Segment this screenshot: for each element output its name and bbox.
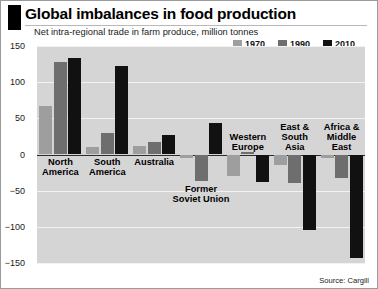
bar-2010 (303, 155, 316, 231)
category-label-line: America (42, 167, 79, 177)
bar-group: NorthAmerica (37, 46, 84, 263)
bar-group: WesternEurope (224, 46, 271, 263)
bar-1990 (288, 155, 301, 184)
bar-1970 (180, 155, 193, 159)
category-label-line: South (280, 132, 309, 142)
chart-subtitle: Net intra-regional trade in farm produce… (34, 27, 258, 37)
y-axis-tick-100: 100 (0, 77, 25, 87)
bar-group: SouthAmerica (84, 46, 131, 263)
bar-group: East &SouthAsia (271, 46, 318, 263)
category-label-line: America (89, 167, 126, 177)
bar-2010 (68, 58, 81, 154)
category-label-line: Middle (324, 132, 360, 142)
bar-2010 (256, 155, 269, 182)
bar-group: Australia (131, 46, 178, 263)
bar-1970 (227, 155, 240, 177)
category-label-line: East (324, 142, 360, 152)
bar-1970 (133, 146, 146, 155)
category-label: FormerSoviet Union (173, 184, 230, 204)
bar-2010 (115, 66, 128, 154)
category-label: WesternEurope (230, 132, 267, 152)
bar-groups: NorthAmericaSouthAmericaAustraliaFormerS… (37, 46, 365, 263)
chart-page: Global imbalances in food production Net… (0, 0, 378, 289)
category-label-line: Western (230, 132, 267, 142)
bar-group: Africa &MiddleEast (318, 46, 365, 263)
category-label-line: Soviet Union (173, 194, 230, 204)
y-axis-tick--100: −100 (0, 222, 25, 232)
header-accent-bar (8, 5, 21, 30)
gridline--150 (37, 263, 365, 264)
y-axis-tick-150: 150 (0, 41, 25, 51)
title-divider (25, 25, 367, 26)
bar-1990 (335, 155, 348, 179)
bar-1990 (195, 155, 208, 182)
category-label: East &SouthAsia (280, 122, 309, 153)
category-label: Africa &MiddleEast (324, 122, 360, 153)
category-label-line: East & (280, 122, 309, 132)
category-label-line: North (42, 157, 79, 167)
bar-1990 (241, 152, 254, 154)
category-label-line: South (89, 157, 126, 167)
bar-2010 (162, 135, 175, 155)
category-label-line: Africa & (324, 122, 360, 132)
bar-group: FormerSoviet Union (178, 46, 225, 263)
y-axis-tick--50: −50 (0, 186, 25, 196)
category-label-line: Former (173, 184, 230, 194)
plot-area: 150100500−50−100−150NorthAmericaSouthAme… (37, 46, 365, 263)
bar-1970 (274, 155, 287, 166)
chart-title: Global imbalances in food production (25, 5, 296, 23)
category-label-line: Australia (134, 157, 174, 167)
y-axis-tick-50: 50 (0, 113, 25, 123)
bar-2010 (350, 155, 363, 258)
bar-1970 (321, 155, 334, 159)
category-label-line: Europe (230, 142, 267, 152)
category-label: SouthAmerica (89, 157, 126, 177)
bar-1970 (86, 147, 99, 154)
bar-2010 (209, 123, 222, 154)
bar-1990 (148, 142, 161, 154)
y-axis-tick--150: −150 (0, 258, 25, 268)
y-axis-tick-0: 0 (0, 150, 25, 160)
bar-1970 (39, 106, 52, 154)
bar-1990 (54, 62, 67, 155)
bar-1990 (101, 133, 114, 155)
category-label: Australia (134, 157, 174, 167)
source-note: Source: Cargill (319, 276, 369, 285)
category-label: NorthAmerica (42, 157, 79, 177)
category-label-line: Asia (280, 142, 309, 152)
